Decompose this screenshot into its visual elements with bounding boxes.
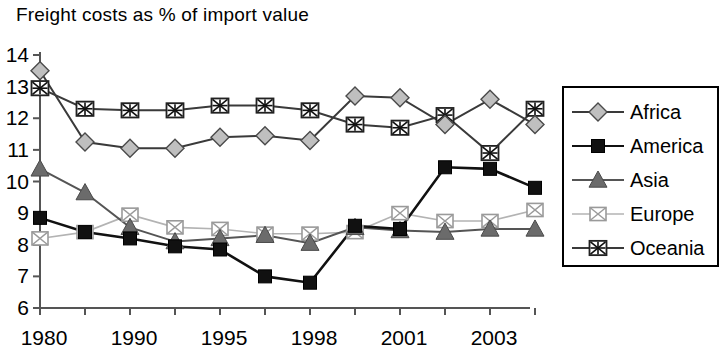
legend-item-label: Oceania [630, 237, 705, 260]
data-point-america-4 [214, 243, 227, 256]
legend-item-label: Europe [630, 203, 695, 226]
data-point-africa-5 [256, 127, 274, 145]
data-point-america-10 [484, 162, 497, 175]
series-line-oceania [40, 88, 535, 153]
x-axis-tick-label: 1990 [111, 326, 158, 349]
data-point-america-3 [169, 240, 182, 253]
data-point-africa-2 [121, 139, 139, 157]
legend-marker [590, 207, 606, 220]
legend-item-label: Asia [630, 169, 669, 192]
legend-item-label: America [630, 135, 703, 158]
data-point-oceania-10 [482, 146, 499, 160]
y-axis-tick-label: 10 [6, 170, 29, 193]
legend-marker [590, 241, 607, 255]
legend-swatch-diamond-icon [570, 98, 626, 126]
data-point-oceania-7 [347, 117, 364, 131]
data-point-oceania-11 [527, 102, 544, 116]
x-axis-tick-label: 2001 [381, 326, 428, 349]
y-axis-tick-label: 13 [6, 75, 29, 98]
chart-page: Freight costs as % of import value 14131… [0, 0, 725, 353]
y-axis-tick-label: 9 [17, 201, 29, 224]
legend-item-africa: Africa [564, 94, 717, 130]
data-point-america-0 [34, 211, 47, 224]
y-axis-tick-label: 14 [6, 43, 30, 66]
x-axis-tick-label: 1980 [21, 326, 68, 349]
legend-item-oceania: Oceania [564, 230, 717, 266]
legend-swatch-square-x-icon [570, 200, 626, 228]
series-oceania [40, 88, 535, 153]
series-america [40, 167, 535, 282]
x-axis-tick-label: 1995 [201, 326, 248, 349]
data-point-europe-8 [392, 207, 408, 220]
series-line-asia [40, 169, 535, 243]
data-point-america-6 [304, 276, 317, 289]
chart-legend: AfricaAmericaAsiaEuropeOceania [562, 86, 719, 267]
legend-item-america: America [564, 128, 717, 164]
data-point-africa-3 [166, 139, 184, 157]
y-axis-tick-label: 7 [17, 264, 29, 287]
data-point-asia-0 [31, 160, 49, 176]
data-point-america-2 [124, 232, 137, 245]
data-point-america-9 [439, 161, 452, 174]
series-markers-oceania [32, 81, 544, 160]
y-axis-tick-label: 8 [17, 233, 29, 256]
data-point-america-5 [259, 270, 272, 283]
series-line-america [40, 167, 535, 282]
legend-swatch-square-star-icon [570, 234, 626, 262]
y-axis-tick-label: 12 [6, 106, 29, 129]
data-point-oceania-8 [392, 121, 409, 135]
data-point-africa-11 [526, 116, 544, 134]
data-point-oceania-3 [167, 103, 184, 117]
legend-item-europe: Europe [564, 196, 717, 232]
x-axis-tick-label: 2003 [471, 326, 518, 349]
series-markers-america [34, 161, 542, 289]
legend-swatch-square-icon [570, 132, 626, 160]
data-point-america-1 [79, 226, 92, 239]
data-point-america-11 [529, 181, 542, 194]
data-point-europe-0 [32, 232, 48, 245]
data-point-africa-1 [76, 133, 94, 151]
y-axis-tick-label: 6 [17, 296, 29, 319]
legend-swatch-triangle-icon [570, 166, 626, 194]
data-point-africa-8 [391, 89, 409, 107]
legend-item-label: Africa [630, 101, 681, 124]
data-point-africa-4 [211, 128, 229, 146]
data-point-oceania-6 [302, 103, 319, 117]
data-point-asia-1 [76, 184, 94, 200]
data-point-oceania-2 [122, 103, 139, 117]
y-axis-tick-label: 11 [7, 138, 29, 161]
data-point-africa-10 [481, 90, 499, 108]
data-point-america-8 [394, 222, 407, 235]
data-point-oceania-5 [257, 98, 274, 112]
data-point-oceania-4 [212, 98, 229, 112]
data-point-oceania-0 [32, 81, 49, 95]
series-asia [40, 169, 535, 243]
data-point-america-7 [349, 219, 362, 232]
legend-marker [589, 103, 607, 121]
x-axis-tick-label: 1998 [291, 326, 338, 349]
series-markers-asia [31, 160, 544, 251]
legend-item-asia: Asia [564, 162, 717, 198]
data-point-oceania-1 [77, 102, 94, 116]
data-point-africa-0 [31, 62, 49, 80]
data-point-europe-11 [527, 203, 543, 216]
legend-marker [592, 140, 605, 153]
